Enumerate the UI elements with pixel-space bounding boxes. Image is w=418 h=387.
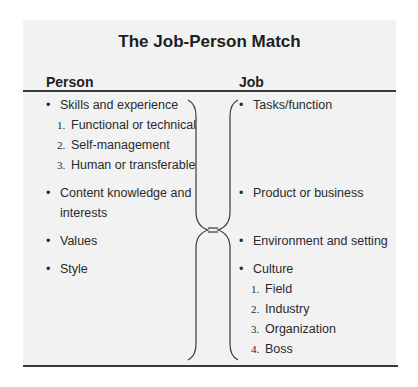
bottom-divider	[23, 365, 398, 367]
double-brace-equals-icon	[0, 0, 418, 387]
